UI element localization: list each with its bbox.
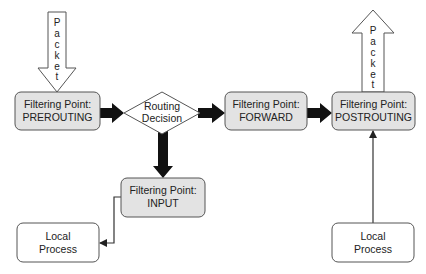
thick-arrow-forward-to-postrouting	[307, 103, 332, 123]
node-prerouting-line2: PREROUTING	[22, 111, 92, 123]
node-input: Filtering Point: INPUT	[121, 178, 205, 217]
packet-out-letter: t	[372, 79, 375, 90]
netfilter-flow-diagram: P a c k e t P a c k e t Filtering Point:…	[0, 0, 426, 274]
node-postrouting: Filtering Point: POSTROUTING	[332, 92, 415, 130]
thin-arrow-input-to-local-process	[100, 197, 121, 243]
packet-in-letter: P	[54, 17, 61, 28]
packet-out-letter: a	[370, 36, 376, 47]
packet-out-letter: c	[371, 47, 376, 58]
node-input-line2: INPUT	[147, 197, 179, 209]
node-local-out-line1: Local	[360, 230, 385, 242]
node-forward: Filtering Point: FORWARD	[225, 92, 307, 130]
node-prerouting-line1: Filtering Point:	[24, 98, 91, 110]
node-local-out-line2: Process	[354, 243, 392, 255]
node-postrouting-line1: Filtering Point:	[340, 98, 407, 110]
thick-arrow-routing-to-forward	[198, 103, 225, 123]
thick-arrow-prerouting-to-routing	[100, 103, 124, 123]
node-local-in-line2: Process	[39, 243, 77, 255]
node-forward-line1: Filtering Point:	[232, 98, 299, 110]
node-routing-line2: Decision	[142, 112, 182, 124]
packet-out-arrow: P a c k e t	[352, 10, 394, 92]
packet-out-letter: P	[370, 25, 377, 36]
packet-in-arrow: P a c k e t	[38, 12, 76, 92]
node-local-in-line1: Local	[45, 230, 70, 242]
node-forward-line2: FORWARD	[239, 111, 293, 123]
node-routing-line1: Routing	[144, 100, 180, 112]
node-local-process-in: Local Process	[17, 223, 99, 262]
packet-in-letter: t	[56, 71, 59, 82]
node-local-process-out: Local Process	[332, 223, 414, 262]
node-prerouting: Filtering Point: PREROUTING	[15, 92, 100, 130]
packet-in-letter: c	[55, 39, 60, 50]
node-routing-decision: Routing Decision	[124, 92, 200, 134]
thick-arrow-routing-to-input	[153, 128, 173, 178]
packet-in-letter: a	[54, 28, 60, 39]
node-input-line1: Filtering Point:	[129, 184, 196, 196]
node-postrouting-line2: POSTROUTING	[335, 111, 412, 123]
